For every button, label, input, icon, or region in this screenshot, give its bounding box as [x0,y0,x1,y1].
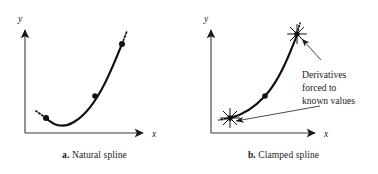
annotation-leader-lower [236,106,320,121]
caption-title: Clamped spline [258,150,319,160]
natural-spline-plot: y x [0,0,189,150]
annotation-line-1: Derivatives [302,69,346,80]
panel-caption: a. Natural spline [0,149,189,161]
knot-point [262,93,268,99]
clamped-spline-curve [230,34,297,118]
knot-point [92,93,98,99]
annotation-leader-upper [302,39,321,60]
y-axis-label: y [17,14,23,24]
annotation-text-block: Derivatives forced to known values [302,69,355,106]
clamped-spline-plot: y x [189,0,378,150]
x-axis-label: x [323,129,329,139]
annotation-line-3: known values [302,95,355,106]
spline-comparison-figure: y x a. Natural spline [0,0,378,174]
caption-title: Natural spline [72,150,127,160]
starburst-marker-left [221,109,240,128]
y-axis-label: y [203,14,209,24]
knot-point [43,115,49,121]
caption-label: b. [248,150,256,160]
caption-label: a. [62,150,69,160]
knot-point [119,41,125,47]
natural-spline-curve [46,44,122,125]
panel-clamped-spline: y x [189,0,378,174]
panel-natural-spline: y x a. Natural spline [0,0,189,174]
annotation-line-2: forced to [302,82,337,93]
x-axis-label: x [151,129,157,139]
panel-caption: b. Clamped spline [189,149,378,161]
